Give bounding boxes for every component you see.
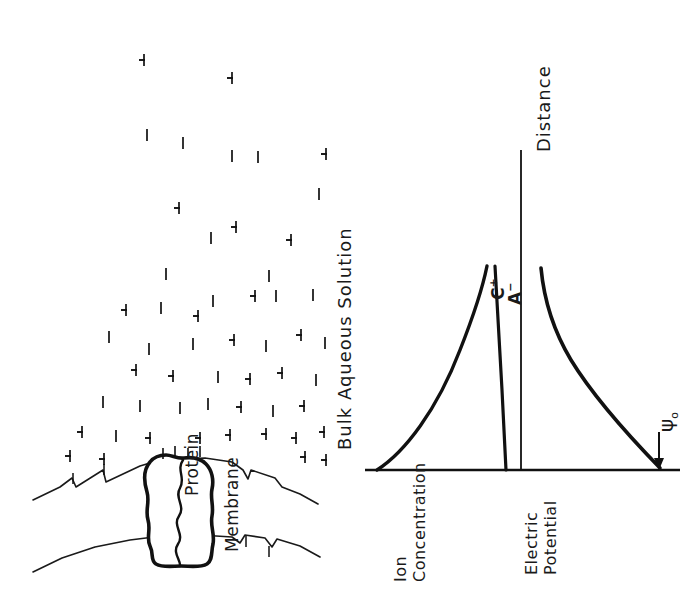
anion-minus-ion — [175, 135, 191, 151]
cation-plus-ion — [62, 448, 78, 464]
cation-plus-ion — [74, 424, 90, 440]
cation-plus-ion — [136, 52, 152, 68]
cation-plus-ion — [224, 70, 240, 86]
psi-symbol: ψ — [654, 419, 678, 432]
cation-plus-ion — [165, 368, 181, 384]
anion-minus-ion — [158, 266, 174, 282]
anion-minus-ion — [317, 335, 333, 351]
cation-plus-ion — [128, 362, 144, 378]
anion-minus-ion — [200, 396, 216, 412]
cation-plus-ion — [171, 200, 187, 216]
cation-concentration-curve — [377, 266, 487, 470]
anion-minus-ion — [311, 186, 327, 202]
electric-potential-axis-label-line1: Electric — [522, 500, 541, 575]
anion-minus-ion — [265, 403, 281, 419]
anion-minus-ion — [224, 148, 240, 164]
cation-plus-ion — [228, 219, 244, 235]
cation-plus-ion — [297, 449, 313, 465]
anion-minus-ion — [141, 341, 157, 357]
cation-plus-ion — [293, 327, 309, 343]
cation-plus-ion — [283, 232, 299, 248]
anion-minus-ion — [258, 338, 274, 354]
ion-concentration-axis-label-line2: Concentration — [410, 462, 429, 582]
electric-potential-curve — [541, 268, 660, 468]
anion-minus-ion — [261, 268, 277, 284]
cation-plus-ion — [274, 365, 290, 381]
cation-curve-label-sup: + — [487, 278, 500, 287]
anion-minus-ion — [108, 428, 124, 444]
cation-plus-ion — [247, 288, 263, 304]
cation-plus-ion — [226, 332, 242, 348]
anion-minus-ion — [139, 127, 155, 143]
cation-plus-ion — [318, 146, 334, 162]
cation-plus-ion — [118, 302, 134, 318]
anion-minus-ion — [205, 293, 221, 309]
electric-potential-axis-label: Electric Potential — [522, 500, 560, 575]
cation-plus-ion — [222, 427, 238, 443]
ion-cloud — [0, 0, 345, 592]
anion-minus-ion — [95, 394, 111, 410]
anion-curve-label: A− — [504, 283, 525, 305]
psi-zero-label: ψo — [654, 412, 681, 432]
anion-minus-ion — [101, 329, 117, 345]
cation-plus-ion — [288, 430, 304, 446]
anion-curve-label-text: A — [505, 292, 525, 305]
figure-canvas: Protein Membrane Bulk Aqueous Solution — [0, 0, 689, 592]
anion-minus-ion — [308, 372, 324, 388]
anion-minus-ion — [210, 369, 226, 385]
anion-minus-ion — [305, 287, 321, 303]
cation-plus-ion — [192, 430, 208, 446]
ion-concentration-axis-label: Ion Concentration — [391, 462, 429, 582]
anion-minus-ion — [203, 230, 219, 246]
distance-axis-label: Distance — [533, 65, 554, 152]
anion-minus-ion — [185, 336, 201, 352]
cation-plus-ion — [96, 451, 112, 467]
cation-plus-ion — [190, 308, 206, 324]
psi-subscript: o — [668, 412, 681, 419]
cation-plus-ion — [316, 424, 332, 440]
cation-plus-ion — [242, 371, 258, 387]
cation-plus-ion — [142, 430, 158, 446]
electric-potential-axis-label-line2: Potential — [541, 500, 560, 575]
cation-plus-ion — [318, 452, 334, 468]
cation-plus-ion — [258, 426, 274, 442]
anion-minus-ion — [268, 288, 284, 304]
cation-plus-ion — [233, 399, 249, 415]
anion-minus-ion — [172, 400, 188, 416]
cation-plus-ion — [296, 398, 312, 414]
ion-concentration-axis-label-line1: Ion — [391, 462, 410, 582]
anion-minus-ion — [153, 300, 169, 316]
anion-minus-ion — [132, 398, 148, 414]
anion-minus-ion — [250, 149, 266, 165]
anion-curve-label-sup: − — [504, 283, 517, 292]
